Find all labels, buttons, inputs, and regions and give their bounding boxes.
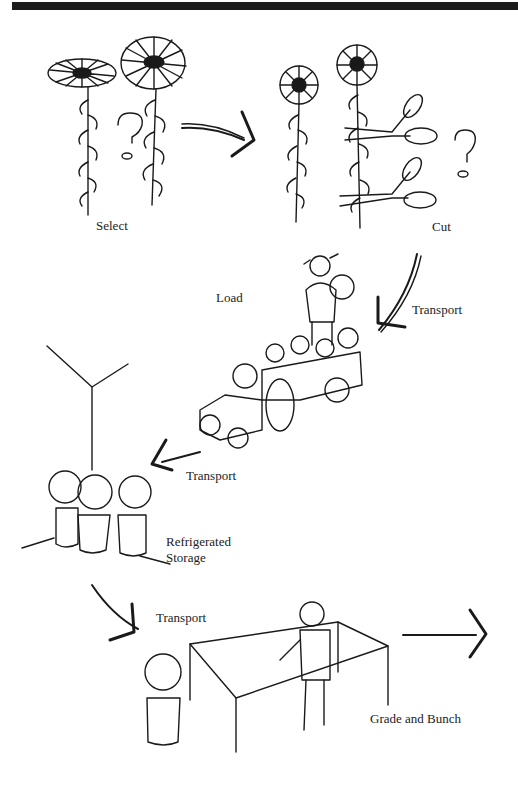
arrow-left-icon [152,440,200,470]
room-corner-lines [22,346,170,564]
scissors-icon [340,154,436,208]
question-mark-icon [455,130,475,177]
step-label-transport-3: Transport [156,610,206,625]
flower-icon [48,59,116,215]
arrow-down-right-icon [92,585,138,640]
flower-icon [121,37,186,205]
person-icon [280,602,330,730]
question-mark-icon [118,113,142,159]
flower-icon [280,66,318,222]
arrow-right-icon [182,112,254,156]
arrow-down-left-icon [378,254,421,332]
step-label-storage-line1: Refrigerated [166,534,231,549]
step-label-grade-and-bunch: Grade and Bunch [370,711,461,726]
bucket-icon [49,471,81,547]
step-label-load: Load [216,290,243,305]
step-label-transport-2: Transport [186,468,236,483]
tractor-icon [200,364,294,448]
scissors-icon [345,91,437,144]
arrow-right-icon [403,610,486,657]
person-icon [304,254,354,345]
bucket-icon [78,475,112,553]
step-label-transport-1: Transport [412,302,462,317]
step-label-select: Select [96,218,128,233]
step-label-cut: Cut [432,219,451,234]
table-icon [190,622,388,752]
bucket-icon [118,476,151,556]
bucket-icon [145,654,181,745]
step-label-storage-line2: Storage [166,550,206,565]
flow-illustration [0,0,518,793]
